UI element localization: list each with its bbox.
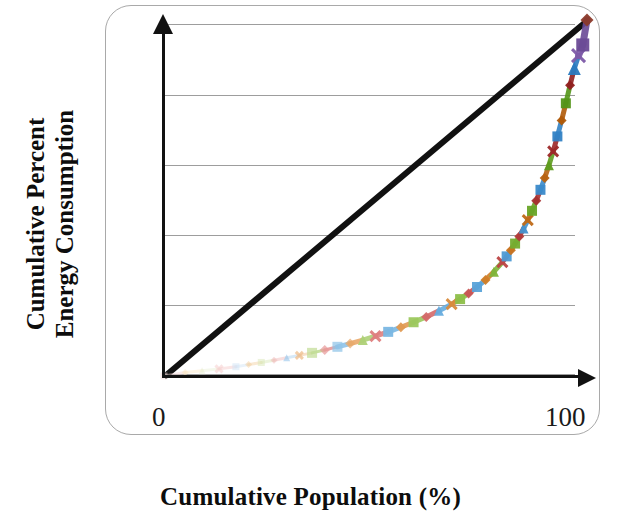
data-point-marker [565, 80, 575, 90]
x-axis-arrowhead [578, 369, 596, 387]
y-axis-title: Cumulative Percent Energy Consumption [21, 54, 79, 394]
data-point-marker [527, 206, 537, 216]
data-point-marker [307, 348, 317, 358]
data-point-marker [455, 294, 465, 304]
x-axis-tick-min: 0 [152, 402, 166, 433]
y-axis-line [162, 18, 165, 378]
data-point-marker [535, 185, 545, 195]
data-point-marker [258, 359, 265, 366]
y-axis-title-line-2: Energy Consumption [50, 54, 79, 394]
x-axis-line [163, 375, 583, 378]
data-point-marker [270, 357, 277, 364]
data-point-marker [472, 282, 482, 292]
x-axis-tick-max: 100 [545, 402, 586, 433]
data-point-marker [552, 131, 562, 141]
data-point-marker [232, 363, 239, 370]
data-point-marker [561, 98, 571, 108]
data-point-marker [576, 38, 589, 51]
data-point-marker [568, 62, 581, 75]
data-point-marker [383, 327, 393, 337]
y-axis-arrowhead [153, 14, 173, 34]
data-point-marker [332, 342, 342, 352]
data-point-marker [245, 361, 252, 368]
data-point-marker [320, 345, 330, 355]
x-axis-title: Cumulative Population (%) [0, 483, 621, 511]
y-axis-title-line-1: Cumulative Percent [21, 54, 50, 394]
lorenz-curve-series [163, 18, 590, 378]
data-point-marker [409, 317, 419, 327]
